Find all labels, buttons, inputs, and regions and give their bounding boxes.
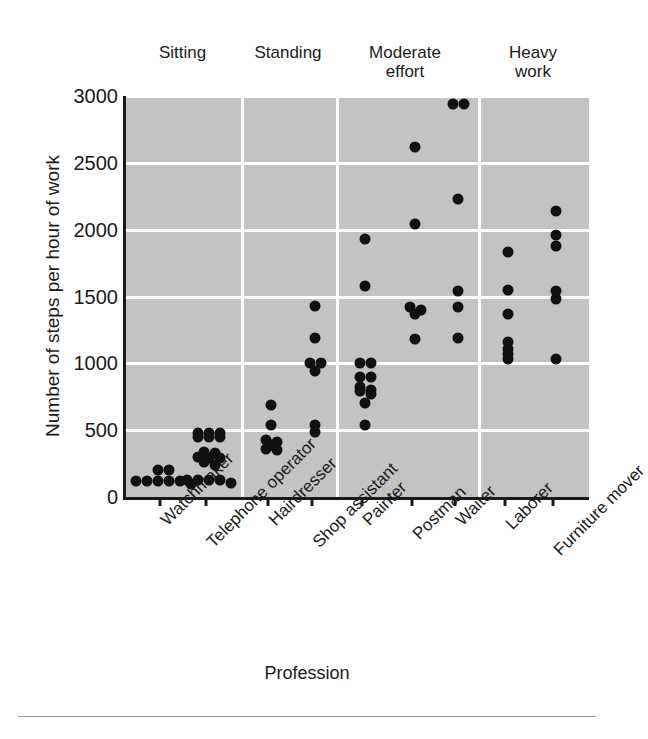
x-axis-tick-mark: [552, 500, 555, 506]
x-axis-tick-mark: [267, 500, 270, 506]
x-axis-tick-mark: [504, 500, 507, 506]
x-axis-tick-mark: [205, 500, 208, 506]
footer-divider: [18, 716, 596, 717]
x-axis-tick-mark: [411, 500, 414, 506]
x-axis-title: Profession: [0, 663, 614, 684]
x-axis-tick-mark: [311, 500, 314, 506]
x-axis-tick-label: Furniture mover: [550, 461, 648, 560]
x-axis-tick-mark: [159, 500, 162, 506]
x-axis-tick-label: Laborer: [502, 478, 558, 534]
x-axis-tick-mark: [454, 500, 457, 506]
x-axis-tick-mark: [361, 500, 364, 506]
